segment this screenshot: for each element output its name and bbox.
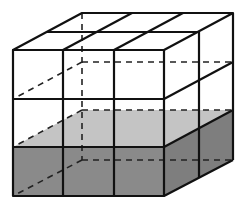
- bottom-layer-front: [13, 147, 164, 196]
- cube-diagram: [0, 0, 246, 201]
